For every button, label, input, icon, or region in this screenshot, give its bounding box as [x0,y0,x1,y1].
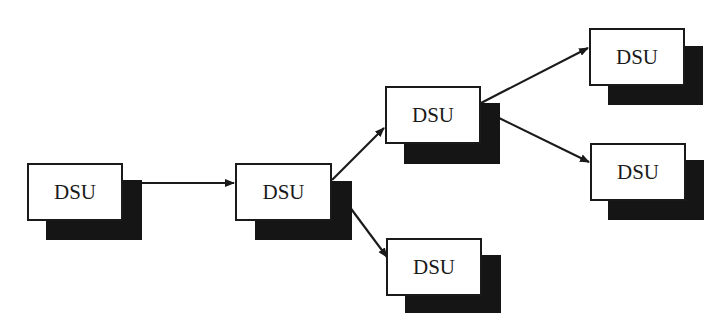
arrow-n2-n3 [332,128,384,180]
node-box: DSU [589,28,685,86]
node-box: DSU [27,163,123,221]
arrow-n3-n6 [497,117,589,162]
arrow-n3-n5 [481,48,588,103]
node-box: DSU [590,143,686,201]
node-box: DSU [385,86,481,144]
node-box: DSU [386,238,482,296]
node-box: DSU [235,163,332,221]
arrow-n2-n4 [349,206,387,257]
